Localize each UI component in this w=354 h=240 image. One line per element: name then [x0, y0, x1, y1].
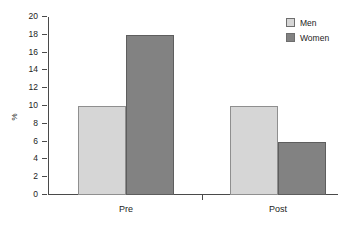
bar-pre-women [126, 35, 174, 195]
bar-post-men [230, 106, 278, 195]
y-tick-mark [42, 105, 47, 106]
legend-swatch-men [286, 18, 295, 27]
y-tick-mark [42, 52, 47, 53]
bar-post-women [278, 142, 326, 195]
y-tick-mark [42, 158, 47, 159]
y-tick-label: 2 [16, 171, 38, 182]
legend-item-women[interactable]: Women [286, 32, 329, 43]
y-tick-mark [42, 123, 47, 124]
y-tick-mark [42, 194, 47, 195]
legend-swatch-women [286, 33, 295, 42]
y-tick-label: 0 [16, 189, 38, 200]
y-tick-label: 6 [16, 136, 38, 147]
y-tick-mark [42, 176, 47, 177]
bars-layer [48, 17, 338, 195]
bar-chart: % 02468101214161820 PrePost MenWomen [0, 0, 354, 240]
bar-pre-men [78, 106, 126, 195]
legend-label-women: Women [300, 33, 329, 43]
x-axis-label-post: Post [248, 203, 308, 215]
y-tick-label: 4 [16, 153, 38, 164]
y-tick-label: 18 [16, 29, 38, 40]
x-tick-mark [202, 195, 203, 200]
x-axis-label-pre: Pre [96, 203, 156, 215]
legend-item-men[interactable]: Men [286, 17, 329, 28]
y-tick-label: 16 [16, 47, 38, 58]
y-tick-mark [42, 16, 47, 17]
y-tick-label: 12 [16, 82, 38, 93]
y-tick-label: 10 [16, 100, 38, 111]
legend-label-men: Men [300, 18, 317, 28]
y-tick-label: 14 [16, 64, 38, 75]
y-tick-mark [42, 69, 47, 70]
y-tick-label: 8 [16, 118, 38, 129]
y-tick-mark [42, 141, 47, 142]
y-tick-mark [42, 34, 47, 35]
y-tick-mark [42, 87, 47, 88]
chart-legend: MenWomen [286, 17, 329, 43]
y-tick-label: 20 [16, 11, 38, 22]
